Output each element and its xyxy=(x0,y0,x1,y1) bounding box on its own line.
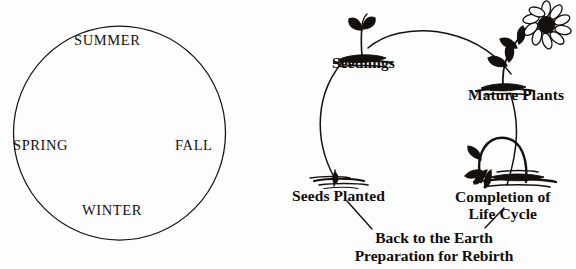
stage-label-completion-line1: Completion of xyxy=(455,188,551,205)
stage-label-seedlings: Seedlings xyxy=(332,55,395,71)
season-label-fall: FALL xyxy=(175,138,213,153)
stage-label-seeds-planted: Seeds Planted xyxy=(292,188,385,204)
stage-label-completion-line2: Life Cycle xyxy=(455,205,551,222)
seasons-circle-art xyxy=(0,0,288,269)
lifecycle-caption-line2: Preparation for Rebirth xyxy=(320,247,548,265)
stage-label-mature-plants: Mature Plants xyxy=(468,87,564,103)
season-label-winter: WINTER xyxy=(82,203,142,218)
withered-plant-icon xyxy=(465,138,556,188)
season-label-summer: SUMMER xyxy=(74,33,140,48)
flowering-plant-icon xyxy=(476,0,572,95)
lifecycle-caption-line1: Back to the Earth xyxy=(320,229,548,247)
cycle-arc-seeds-to-seedlings xyxy=(320,58,346,177)
figure-root: SUMMER SPRING FALL WINTER xyxy=(0,0,576,269)
seasons-circle-diagram: SUMMER SPRING FALL WINTER xyxy=(0,0,288,269)
plant-lifecycle-diagram: Seedlings Mature Plants Completion of Li… xyxy=(288,0,576,269)
seed-in-soil-icon xyxy=(310,170,368,189)
caption-connector-left xyxy=(347,201,372,229)
season-label-spring: SPRING xyxy=(13,138,68,153)
stage-label-completion-of-life-cycle: Completion of Life Cycle xyxy=(455,188,551,223)
lifecycle-caption: Back to the Earth Preparation for Rebirt… xyxy=(320,229,548,264)
